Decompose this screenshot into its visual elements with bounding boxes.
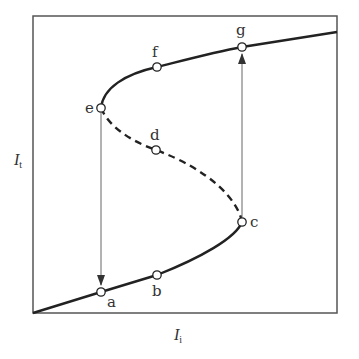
point-d — [152, 146, 160, 154]
label-c: c — [250, 213, 258, 231]
point-c — [238, 218, 246, 226]
lower-stable-branch — [33, 222, 242, 313]
middle-unstable-branch — [101, 108, 242, 222]
x-axis-label: Ii — [173, 326, 182, 345]
y-axis-label: It — [13, 151, 22, 170]
label-f: f — [152, 43, 159, 61]
arrowhead-up-icon — [238, 53, 246, 64]
point-b — [153, 271, 161, 279]
label-b: b — [152, 282, 162, 300]
upper-stable-branch — [101, 32, 337, 108]
label-e: e — [85, 99, 94, 117]
label-g: g — [236, 21, 246, 39]
label-d: d — [150, 126, 160, 144]
arrowhead-down-icon — [97, 275, 105, 286]
point-a — [97, 288, 105, 296]
hysteresis-diagram: a b c d e f g It Ii — [0, 0, 359, 359]
label-a: a — [107, 293, 116, 311]
point-f — [153, 63, 161, 71]
point-e — [97, 104, 105, 112]
point-g — [238, 43, 246, 51]
